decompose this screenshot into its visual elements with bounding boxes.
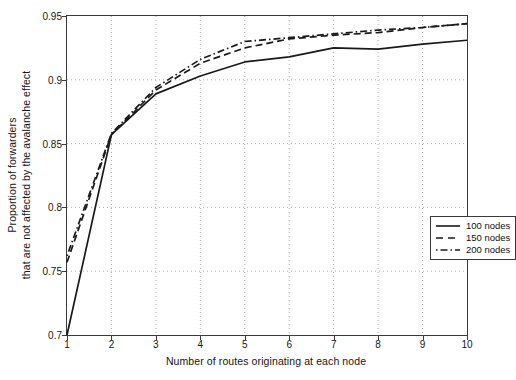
x-tick-label: 4 <box>198 339 204 350</box>
y-tick-label: 0.9 <box>48 74 62 85</box>
x-tick-label: 7 <box>331 339 337 350</box>
x-tick-label: 5 <box>242 339 248 350</box>
x-tick-mark <box>378 335 379 340</box>
y-tick-label: 0.8 <box>48 202 62 213</box>
y-tick-mark <box>62 144 67 145</box>
x-tick-label: 8 <box>375 339 381 350</box>
x-tick-mark <box>200 335 201 340</box>
y-tick-label: 0.85 <box>43 138 62 149</box>
y-axis-title-line2: that are not affected by the avalanche e… <box>20 70 32 278</box>
legend-label-150-nodes: 150 nodes <box>466 232 510 244</box>
legend-box[interactable]: 100 nodes 150 nodes 200 nodes <box>430 216 516 260</box>
legend-label-100-nodes: 100 nodes <box>466 220 510 232</box>
x-tick-label: 9 <box>420 339 426 350</box>
y-tick-mark <box>62 80 67 81</box>
data-series-lines <box>67 16 467 335</box>
legend-item-150-nodes: 150 nodes <box>435 232 510 244</box>
legend-item-100-nodes: 100 nodes <box>435 220 510 232</box>
series-line-100-nodes <box>67 40 467 335</box>
y-axis-title-line1: Proportion of forwarders <box>6 117 18 232</box>
x-tick-mark <box>334 335 335 340</box>
legend-swatch-solid-icon <box>435 221 461 231</box>
y-tick-mark <box>62 271 67 272</box>
y-tick-mark <box>62 16 67 17</box>
y-tick-label: 0.95 <box>43 11 62 22</box>
plot-area: 0.70.750.80.850.90.9512345678910 100 nod… <box>66 15 468 336</box>
legend-swatch-dashdot-icon <box>435 245 461 255</box>
x-axis-title: Number of routes originating at each nod… <box>66 355 466 367</box>
x-tick-mark <box>289 335 290 340</box>
legend-swatch-dashed-icon <box>435 233 461 243</box>
x-tick-mark <box>423 335 424 340</box>
x-tick-mark <box>467 335 468 340</box>
x-tick-mark <box>67 335 68 340</box>
x-tick-label: 10 <box>461 339 472 350</box>
y-axis-title: Proportion of forwarders that are not af… <box>0 0 34 349</box>
x-tick-mark <box>156 335 157 340</box>
legend-label-200-nodes: 200 nodes <box>466 244 510 256</box>
y-tick-mark <box>62 207 67 208</box>
y-tick-label: 0.7 <box>48 330 62 341</box>
x-tick-label: 3 <box>153 339 159 350</box>
x-tick-label: 2 <box>109 339 115 350</box>
y-tick-label: 0.75 <box>43 266 62 277</box>
x-tick-label: 6 <box>286 339 292 350</box>
legend-item-200-nodes: 200 nodes <box>435 244 510 256</box>
x-tick-mark <box>245 335 246 340</box>
x-tick-label: 1 <box>64 339 70 350</box>
x-tick-mark <box>111 335 112 340</box>
series-line-200-nodes <box>67 24 467 256</box>
